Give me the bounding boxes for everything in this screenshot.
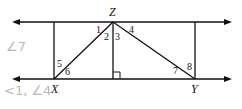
angle-label-7: 7 [173, 65, 178, 76]
segment-zy [113, 22, 195, 79]
arrowhead-right-icon [224, 19, 232, 25]
point-label-y: Y [191, 82, 199, 96]
angle-label-2: 2 [104, 31, 109, 42]
angle-label-8: 8 [187, 61, 192, 72]
angle-label-6: 6 [65, 66, 70, 77]
angle-label-4: 4 [129, 24, 134, 35]
bottom-parallel-line [12, 76, 232, 82]
angle-label-1: 1 [96, 24, 101, 35]
arrowhead-left-icon [12, 19, 20, 25]
handwritten-note-2: <1, ∠4 [4, 83, 51, 98]
right-angle-mark-icon [113, 72, 120, 79]
angle-label-3: 3 [115, 31, 120, 42]
point-label-z: Z [109, 5, 116, 19]
angle-label-5: 5 [57, 58, 62, 69]
top-parallel-line [12, 19, 232, 25]
geometry-diagram: Z X Y 1 2 3 4 5 6 7 8 ∠7 <1, ∠4 [0, 0, 242, 109]
arrowhead-left-icon [12, 76, 20, 82]
handwritten-note-1: ∠7 [6, 39, 26, 54]
arrowhead-right-icon [224, 76, 232, 82]
